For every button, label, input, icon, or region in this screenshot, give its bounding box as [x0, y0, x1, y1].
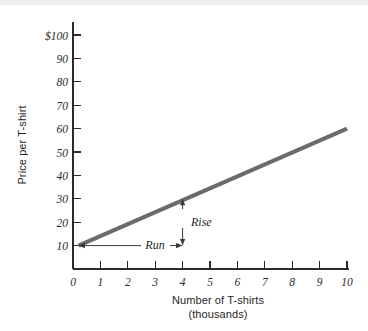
x-axis-subtitle: (thousands): [188, 308, 247, 320]
y-tick-label: 40: [57, 170, 69, 182]
x-axis-title: Number of T-shirts: [172, 294, 264, 306]
x-tick-label: 3: [151, 276, 158, 288]
rise-label: Rise: [190, 215, 212, 229]
price-supply-line: [79, 129, 348, 246]
x-tick-label: 7: [262, 276, 269, 288]
rise-annotation: Rise: [180, 199, 212, 246]
y-tick-label: $100: [45, 30, 68, 42]
y-tick-label: 30: [56, 193, 69, 205]
x-tick-label: 8: [289, 276, 295, 288]
x-tick-label: 10: [341, 276, 353, 288]
x-tick-label: 9: [317, 276, 323, 288]
chart-page: $100 90 80 70 60 50 40 30 20 10: [0, 0, 368, 331]
y-tick-labels: $100 90 80 70 60 50 40 30 20 10: [45, 30, 68, 253]
x-tick-label: 5: [207, 276, 213, 288]
y-tick-label: 70: [57, 100, 69, 112]
x-tick-label: 6: [235, 276, 241, 288]
y-tick-label: 90: [57, 53, 69, 65]
y-tick-label: 60: [57, 123, 69, 135]
y-tick-label: 80: [57, 76, 69, 88]
y-tick-marks: [73, 35, 81, 246]
y-axis-title: Price per T-shirt: [16, 105, 28, 184]
y-tick-label: 20: [57, 217, 69, 229]
y-tick-label: 50: [57, 147, 69, 159]
x-tick-labels: 0 1 2 3 4 5 6 7 8 9 10: [70, 276, 353, 288]
x-tick-label: 2: [125, 276, 131, 288]
x-tick-label: 4: [180, 276, 186, 288]
run-label: Run: [144, 238, 164, 252]
line-chart: $100 90 80 70 60 50 40 30 20 10: [0, 0, 368, 331]
x-tick-label: 1: [98, 276, 104, 288]
y-tick-label: 10: [57, 240, 69, 252]
x-tick-marks: [73, 261, 347, 269]
x-tick-label: 0: [70, 276, 76, 288]
